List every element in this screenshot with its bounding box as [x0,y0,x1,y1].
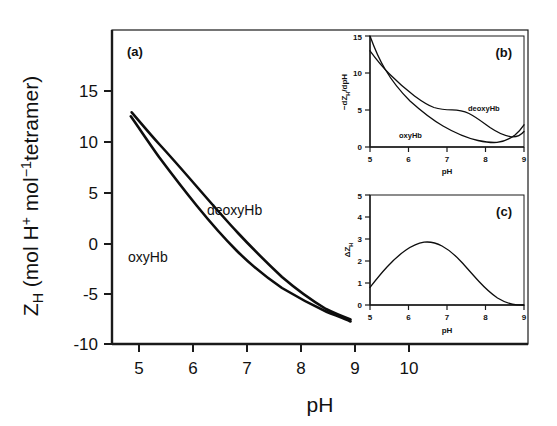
inset-c-panel: 0 1 2 3 4 5 5 6 7 8 9 pH ΔZH [343,192,527,335]
main-x-ticklabel-5: 5 [134,359,143,378]
inset-b-y-ticklabel-5: 5 [358,106,363,115]
main-x-ticks [139,344,409,352]
inset-b-y-ticks [365,36,370,147]
y-label-rest2: mol [19,177,42,217]
inset-b-x-ticklabel-8: 8 [483,155,488,164]
main-label-oxyhb: oxyHb [128,249,168,265]
inset-b-y-ticklabel-10: 10 [353,69,362,78]
main-x-ticklabel-9: 9 [350,359,359,378]
inset-c-x-ticks [370,305,524,310]
y-label-sup-neg1: −1 [18,161,34,177]
svg-text:−dZH/dpH: −dZH/dpH [340,74,351,110]
main-label-deoxyhb: deoxyHb [207,202,262,218]
main-y-ticklabel-15: 15 [79,82,98,101]
main-y-ticklabel-5: 5 [89,184,98,203]
y-label-rest1: (mol H [19,225,42,293]
inset-c-y-ticklabel-4: 4 [358,213,363,222]
inset-b-x-ticklabel-9: 9 [522,155,527,164]
inset-c-y-ticklabel-2: 2 [358,257,363,266]
inset-b-label-deoxyhb: deoxyHb [468,104,500,113]
inset-c-ylabel-prefix: ΔZ [343,247,352,258]
inset-b-x-ticklabel-6: 6 [406,155,411,164]
inset-b-x-ticks [370,147,524,152]
main-x-ticklabel-8: 8 [296,359,305,378]
inset-b-curve-deoxyhb [370,51,524,137]
inset-c-x-ticklabel-5: 5 [368,313,373,322]
main-y-ticklabel-neg10: -10 [73,335,98,354]
inset-b-y-axis-label: −dZH/dpH [340,74,351,110]
main-plot-frame [112,30,528,344]
inset-b-ylabel-prefix: −dZ [340,96,349,111]
inset-c-x-ticklabel-7: 7 [445,313,450,322]
y-label-symbol: Z [19,303,42,316]
inset-c-ylabel-sub: H [348,243,354,247]
inset-c-y-ticklabel-3: 3 [358,235,363,244]
inset-b-y-ticklabel-15: 15 [353,33,362,42]
inset-c-x-axis-label: pH [442,326,453,335]
y-label-sub-H: H [30,293,46,303]
inset-b-x-axis-label: pH [442,167,453,176]
inset-b-x-ticklabel-7: 7 [445,155,450,164]
svg-text:ΔZH: ΔZH [343,243,354,258]
inset-b-label-oxyhb: oxyHb [399,131,422,140]
main-curve-oxyhb [131,116,351,321]
inset-c-x-ticklabel-9: 9 [522,313,527,322]
main-panel: 15 10 5 0 -5 -10 5 6 7 8 9 10 pH [18,30,528,416]
inset-c-panel-letter: (c) [496,204,512,219]
main-x-ticklabel-7: 7 [242,359,251,378]
main-y-axis-label: ZH (mol H+ mol−1tetramer) [18,76,46,316]
main-x-ticklabel-6: 6 [188,359,197,378]
inset-b-x-ticklabel-5: 5 [368,155,373,164]
main-panel-letter: (a) [127,44,143,59]
inset-c-y-axis-label: ΔZH [343,243,354,258]
y-label-rest3: tetramer) [19,76,42,161]
inset-b-panel-letter: (b) [495,45,512,60]
inset-c-y-ticklabel-5: 5 [358,192,363,201]
inset-c-x-ticklabel-8: 8 [483,313,488,322]
main-y-ticklabel-neg5: -5 [83,285,98,304]
main-x-ticklabel-10: 10 [400,359,419,378]
inset-c-y-ticklabel-1: 1 [358,279,363,288]
inset-b-y-ticklabel-0: 0 [358,143,363,152]
inset-c-y-ticks [365,195,370,305]
main-y-ticklabel-0: 0 [89,235,98,254]
figure-root: 15 10 5 0 -5 -10 5 6 7 8 9 10 pH [0,0,557,426]
y-label-sup-plus: + [18,217,34,225]
svg-text:ZH (mol H+ mol−1tetramer): ZH (mol H+ mol−1tetramer) [18,76,46,316]
inset-c-y-ticklabel-0: 0 [358,301,363,310]
main-y-ticklabel-10: 10 [79,133,98,152]
figure-svg: 15 10 5 0 -5 -10 5 6 7 8 9 10 pH [0,0,557,426]
inset-b-panel: 0 5 10 15 5 6 7 8 9 pH −dZH/dpH [340,33,527,176]
inset-b-ylabel-suffix: /dpH [340,74,349,92]
inset-c-curve-deltazh [370,242,524,305]
main-x-axis-label: pH [307,393,334,416]
inset-c-x-ticklabel-6: 6 [406,313,411,322]
